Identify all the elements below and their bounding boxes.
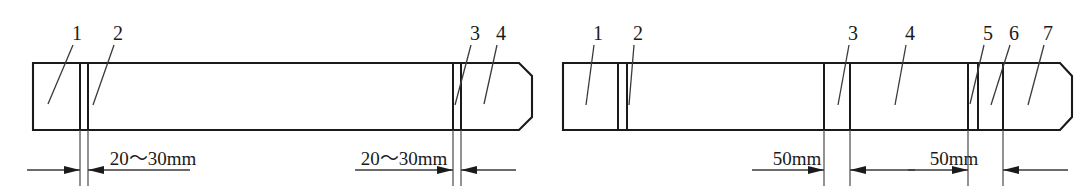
right-dim-arrow-b: [850, 166, 866, 174]
right-rod-outline: [563, 63, 1072, 130]
right-dimension-text-2: 50mm: [930, 148, 979, 169]
right-ref-label-4: 4: [905, 22, 915, 44]
technical-drawing-svg: 1 2 3 4 20～30mm 20～30mm: [0, 0, 1084, 193]
right-leader-1: [586, 45, 594, 105]
right-dim-arrow-d: [1003, 166, 1019, 174]
left-rod-assembly: 1 2 3 4 20～30mm 20～30mm: [27, 22, 532, 186]
left-dimension-text-2: 20～30mm: [361, 148, 448, 169]
right-ref-label-5: 5: [983, 22, 993, 44]
right-dimension-text-1: 50mm: [773, 148, 822, 169]
right-leader-3: [838, 45, 849, 105]
left-dimension-text-1: 20～30mm: [110, 148, 197, 169]
left-leader-1: [48, 45, 73, 104]
left-leader-2: [93, 45, 114, 105]
right-leader-6: [991, 45, 1010, 105]
right-ref-label-2: 2: [633, 22, 643, 44]
right-leader-7: [1028, 45, 1044, 105]
right-leader-4: [895, 45, 906, 105]
right-ref-label-6: 6: [1009, 22, 1019, 44]
left-leader-4: [484, 45, 497, 104]
right-leader-2: [629, 45, 634, 105]
left-dim-arrow-b: [88, 166, 104, 174]
right-ref-label-7: 7: [1043, 22, 1053, 44]
right-ref-label-3: 3: [848, 22, 858, 44]
left-dim-arrow-a: [64, 166, 80, 174]
left-ref-label-4: 4: [496, 22, 506, 44]
right-rod-assembly: 1 2 3 4 5 6 7 50mm 50mm: [563, 22, 1072, 186]
right-ref-label-1: 1: [593, 22, 603, 44]
left-leader-3: [455, 45, 471, 105]
left-dim-arrow-d: [461, 166, 477, 174]
left-ref-label-3: 3: [470, 22, 480, 44]
left-ref-label-2: 2: [113, 22, 123, 44]
left-ref-label-1: 1: [72, 22, 82, 44]
diagram-canvas: 1 2 3 4 20～30mm 20～30mm: [0, 0, 1084, 193]
